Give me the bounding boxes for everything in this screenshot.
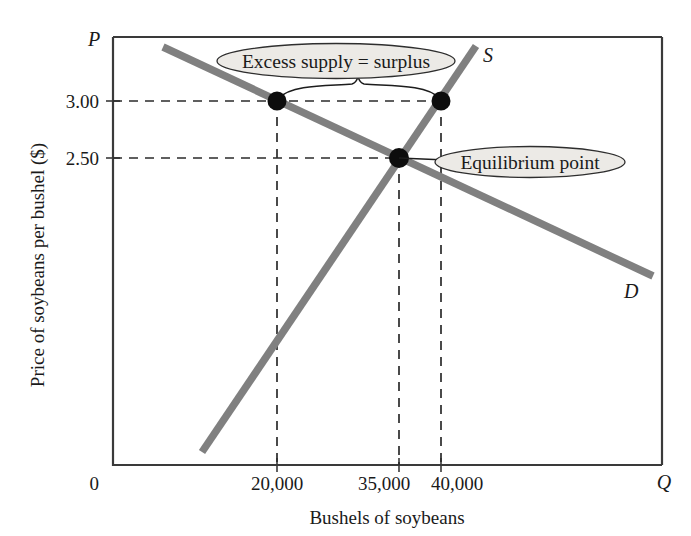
y-tick-label-300: 3.00 bbox=[66, 91, 99, 112]
supply-curve-label: S bbox=[483, 44, 493, 66]
demand-curve-label: D bbox=[623, 280, 639, 302]
x-origin-label: 0 bbox=[90, 473, 100, 494]
x-tick-label-40000: 40,000 bbox=[431, 473, 483, 494]
supply-demand-figure: S D Excess supply = surplus Equilibrium … bbox=[0, 0, 691, 536]
equilibrium-callout-text: Equilibrium point bbox=[460, 152, 600, 173]
y-axis-title: Price of soybeans per bushel ($) bbox=[27, 143, 49, 387]
surplus-callout-text: Excess supply = surplus bbox=[242, 51, 430, 72]
y-tick-label-250: 2.50 bbox=[66, 148, 99, 169]
chart-canvas: S D Excess supply = surplus Equilibrium … bbox=[0, 0, 691, 536]
marker-supply-at-3 bbox=[432, 92, 451, 111]
y-axis-symbol: P bbox=[87, 28, 100, 50]
x-tick-label-35000: 35,000 bbox=[358, 473, 410, 494]
x-axis-symbol: Q bbox=[657, 471, 672, 493]
x-axis-title: Bushels of soybeans bbox=[309, 507, 464, 528]
surplus-brace bbox=[279, 77, 439, 98]
x-tick-label-20000: 20,000 bbox=[251, 473, 303, 494]
marker-demand-at-3 bbox=[268, 92, 287, 111]
